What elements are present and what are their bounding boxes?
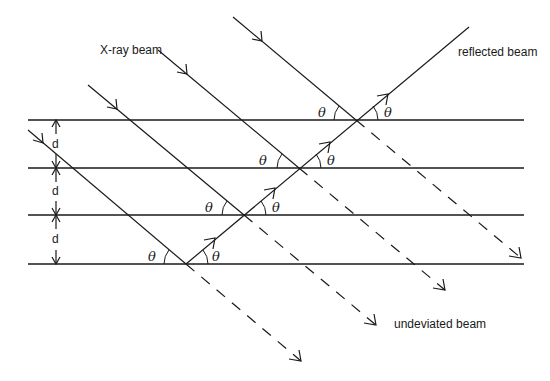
spacing-label: d	[52, 184, 59, 198]
reflected-beam-label: reflected beam	[458, 45, 537, 59]
spacing-label: d	[52, 232, 59, 246]
bragg-diagram: θ θ θ θ θ θ θ θ d d d X-ray beam reflect…	[0, 0, 550, 381]
undeviated-beam-label: undeviated beam	[394, 317, 486, 331]
angle-arc-reflected-4	[203, 250, 208, 264]
spacing-label: d	[52, 137, 59, 151]
theta-label: θ	[327, 153, 335, 168]
theta-label: θ	[205, 200, 213, 215]
incident-beam-1	[233, 17, 356, 120]
reflected-beam-line	[186, 27, 469, 264]
incident-beams	[28, 17, 356, 264]
angle-labels: θ θ θ θ θ θ θ θ	[148, 105, 392, 264]
incident-beam-label: X-ray beam	[100, 43, 162, 57]
angle-arc-reflected-2	[316, 154, 321, 168]
theta-label: θ	[259, 153, 267, 168]
reflected-beam	[186, 27, 469, 264]
angle-arc-reflected-1	[373, 106, 378, 120]
spacing-markers: d d d	[52, 120, 60, 264]
incident-beam-2	[158, 50, 299, 168]
undeviated-beam-1	[356, 120, 521, 258]
theta-label: θ	[318, 105, 326, 120]
theta-label: θ	[384, 105, 392, 120]
undeviated-beam-3	[244, 215, 376, 325]
undeviated-beam-4	[186, 264, 301, 361]
angle-arc-incident-3	[222, 201, 227, 215]
angle-arc-incident-2	[277, 154, 282, 168]
angle-arc-incident-1	[334, 106, 339, 120]
theta-label: θ	[212, 249, 220, 264]
theta-label: θ	[148, 249, 156, 264]
undeviated-beam-2	[299, 168, 445, 290]
angle-arc-incident-4	[164, 250, 169, 264]
incident-beam-3	[88, 85, 244, 215]
angle-arc-reflected-3	[261, 201, 266, 215]
theta-label: θ	[272, 200, 280, 215]
